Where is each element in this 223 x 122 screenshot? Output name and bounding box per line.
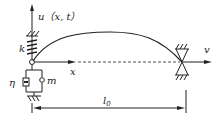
spring-label: k — [19, 43, 25, 54]
ground-hatch — [27, 96, 41, 101]
velocity-arrow — [183, 60, 212, 64]
velocity-label: v — [204, 44, 210, 55]
damper-label: η — [9, 77, 15, 88]
deflection-curve — [33, 32, 182, 62]
x-axis — [35, 60, 180, 64]
mass-label: m — [47, 75, 56, 86]
length-label: l0 — [103, 95, 111, 108]
damper-icon — [23, 78, 29, 86]
x-label: x — [70, 66, 76, 77]
diagram-canvas: u（x, t） k x η m — [0, 0, 223, 122]
u-label: u（x, t） — [38, 11, 80, 22]
mass-icon — [40, 78, 45, 83]
